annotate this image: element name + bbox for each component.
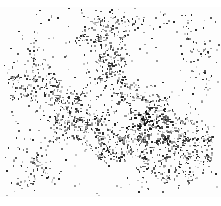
field-background xyxy=(0,7,221,197)
micrograph-figure xyxy=(0,0,221,206)
micrograph-image xyxy=(0,0,221,206)
